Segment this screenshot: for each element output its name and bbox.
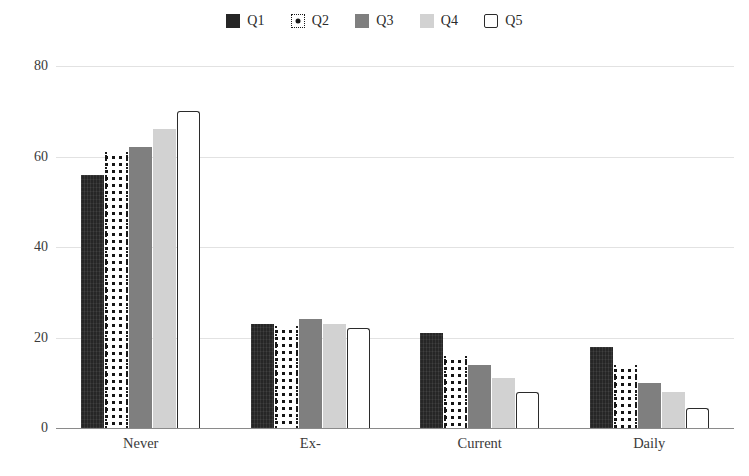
bar-q4-never[interactable] <box>153 129 176 428</box>
y-axis-tick-label: 40 <box>4 240 48 254</box>
outline-square-icon <box>484 14 498 28</box>
legend-label: Q1 <box>247 14 265 28</box>
bar-q2-never[interactable] <box>105 152 128 428</box>
bar-chart: Q1Q2Q3Q4Q5 020406080 NeverEx-CurrentDail… <box>0 0 749 476</box>
legend-label: Q2 <box>312 14 330 28</box>
legend-label: Q4 <box>441 14 459 28</box>
solid-gray-square-icon <box>355 14 369 28</box>
bar-q5-daily[interactable] <box>686 408 709 428</box>
chart-legend: Q1Q2Q3Q4Q5 <box>0 14 749 28</box>
bar-q3-ex[interactable] <box>299 319 322 428</box>
bar-q3-never[interactable] <box>129 147 152 428</box>
legend-item-q4[interactable]: Q4 <box>420 14 459 28</box>
bar-q1-never[interactable] <box>81 175 104 428</box>
bar-q3-current[interactable] <box>468 365 491 428</box>
bar-q2-ex[interactable] <box>275 326 298 428</box>
bar-q2-daily[interactable] <box>614 365 637 428</box>
bars <box>395 66 565 428</box>
solid-dark-square-icon <box>226 14 240 28</box>
bar-q5-ex[interactable] <box>347 328 370 428</box>
bar-q1-daily[interactable] <box>590 347 613 428</box>
x-axis-tick-label: Ex- <box>226 436 396 451</box>
bar-group-daily <box>565 66 735 428</box>
bar-q4-ex[interactable] <box>323 324 346 428</box>
bar-q5-current[interactable] <box>516 392 539 428</box>
y-axis-tick-label: 80 <box>4 59 48 73</box>
legend-item-q3[interactable]: Q3 <box>355 14 394 28</box>
bar-q4-daily[interactable] <box>662 392 685 428</box>
bars <box>565 66 735 428</box>
bar-q3-daily[interactable] <box>638 383 661 428</box>
x-axis-line <box>56 428 734 429</box>
bar-group-current <box>395 66 565 428</box>
bar-q1-ex[interactable] <box>251 324 274 428</box>
legend-item-q1[interactable]: Q1 <box>226 14 265 28</box>
bar-q4-current[interactable] <box>492 378 515 428</box>
y-axis-tick-label: 0 <box>4 421 48 435</box>
legend-item-q2[interactable]: Q2 <box>291 14 330 28</box>
bar-q5-never[interactable] <box>177 111 200 428</box>
bar-group-never <box>56 66 226 428</box>
bar-q2-current[interactable] <box>444 356 467 428</box>
y-axis-tick-label: 20 <box>4 331 48 345</box>
x-axis-tick-label: Daily <box>565 436 735 451</box>
x-axis-tick-label: Current <box>395 436 565 451</box>
legend-label: Q3 <box>376 14 394 28</box>
plot-area: 020406080 <box>56 66 734 428</box>
legend-label: Q5 <box>505 14 523 28</box>
x-axis-tick-label: Never <box>56 436 226 451</box>
legend-item-q5[interactable]: Q5 <box>484 14 523 28</box>
bar-group-ex <box>226 66 396 428</box>
bars <box>226 66 396 428</box>
x-axis-labels: NeverEx-CurrentDaily <box>56 436 734 451</box>
solid-light-gray-square-icon <box>420 14 434 28</box>
y-axis-tick-label: 60 <box>4 150 48 164</box>
dotted-square-icon <box>291 14 305 28</box>
bar-q1-current[interactable] <box>420 333 443 428</box>
bar-groups <box>56 66 734 428</box>
bars <box>56 66 226 428</box>
